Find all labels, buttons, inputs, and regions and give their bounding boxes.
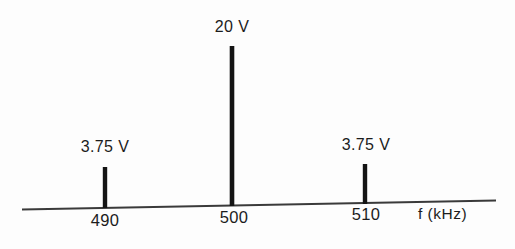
- x-tick-label-500: 500: [220, 209, 249, 226]
- x-tick-label-490: 490: [91, 212, 120, 229]
- frequency-spectrum-figure: 3.75 V 20 V 3.75 V 490 500 510 f (kHz): [0, 0, 515, 249]
- amplitude-label-490: 3.75 V: [81, 139, 130, 155]
- x-axis-title: f (kHz): [418, 206, 467, 222]
- amplitude-label-500: 20 V: [215, 19, 250, 35]
- x-tick-label-510: 510: [352, 206, 381, 223]
- amplitude-label-510: 3.75 V: [342, 137, 391, 153]
